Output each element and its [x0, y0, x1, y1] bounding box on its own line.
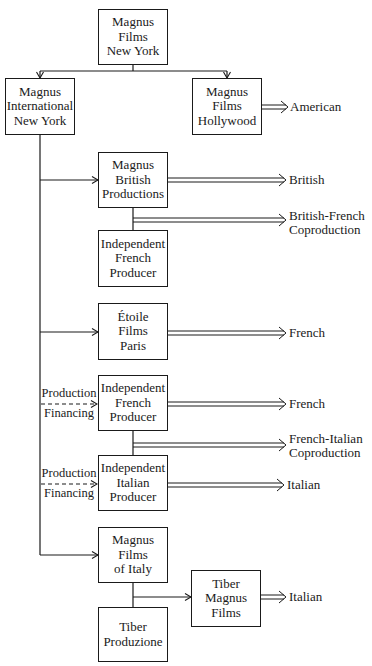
node-label: Magnus Films Hollywood [198, 85, 257, 129]
node-label: Magnus International New York [7, 85, 73, 129]
node-independent-italian-producer: Independent Italian Producer [98, 455, 168, 511]
node-label: Magnus British Productions [102, 158, 164, 202]
node-label: Independent Italian Producer [101, 461, 165, 505]
financing-label-1: Financing [40, 407, 98, 420]
node-magnus-films-of-italy: Magnus Films of Italy [98, 527, 168, 583]
node-label: Tiber Magnus Films [205, 577, 247, 621]
output-american: American [290, 100, 341, 114]
node-label: Independent French Producer [101, 381, 165, 425]
node-etoile-films-paris: Étoile Films Paris [98, 303, 168, 360]
node-magnus-british-productions: Magnus British Productions [98, 152, 168, 208]
financing-label-2: Financing [40, 487, 98, 500]
node-label: Étoile Films Paris [117, 310, 148, 354]
node-magnus-films-hollywood: Magnus Films Hollywood [192, 78, 262, 135]
production-label-1: Production [40, 387, 98, 400]
node-label: Independent French Producer [101, 237, 165, 281]
node-label: Tiber Produzione [103, 620, 162, 649]
production-label-2: Production [40, 467, 98, 480]
node-tiber-magnus-films: Tiber Magnus Films [191, 570, 261, 627]
output-french-1: French [289, 326, 325, 340]
output-french-italian-coproduction: French-Italian Coproduction [289, 432, 363, 459]
output-italian-2: Italian [289, 590, 322, 604]
output-italian-1: Italian [287, 478, 320, 492]
node-tiber-produzione: Tiber Produzione [98, 607, 168, 662]
node-independent-french-producer-1: Independent French Producer [98, 230, 168, 287]
node-magnus-films-new-york: Magnus Films New York [98, 9, 168, 65]
output-british: British [289, 173, 324, 187]
output-french-2: French [289, 397, 325, 411]
node-independent-french-producer-2: Independent French Producer [98, 375, 168, 431]
org-flow-diagram: Magnus Films New York Magnus Internation… [0, 0, 372, 666]
node-magnus-international: Magnus International New York [5, 78, 75, 135]
node-label: Magnus Films of Italy [112, 533, 154, 577]
output-british-french-coproduction: British-French Coproduction [289, 209, 365, 236]
node-label: Magnus Films New York [107, 15, 160, 59]
